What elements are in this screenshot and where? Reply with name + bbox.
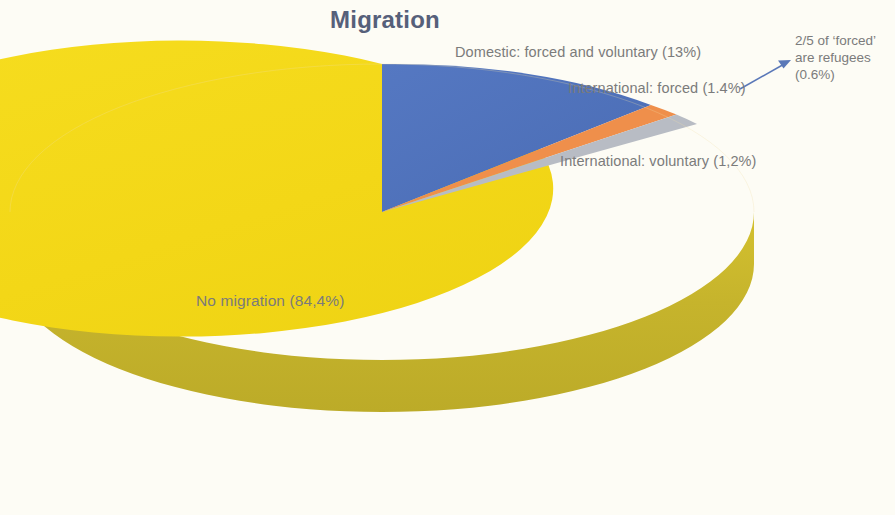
pie-label-international-forced: International: forced (1.4%) <box>568 80 746 96</box>
refugee-annotation: 2/5 of ‘forced’ are refugees (0.6%) <box>795 32 895 83</box>
chart-canvas: Migration <box>0 0 895 515</box>
pie-label-domestic: Domestic: forced and voluntary (13%) <box>455 44 701 60</box>
pie-label-no-migration: No migration (84,4%) <box>196 292 344 310</box>
pie-chart-graphic <box>0 0 895 515</box>
refugee-annotation-line1: 2/5 of ‘forced’ <box>795 32 895 49</box>
pie-label-international-voluntary: International: voluntary (1,2%) <box>560 153 757 169</box>
arrow-up-right-icon <box>740 60 791 89</box>
refugee-annotation-line3: (0.6%) <box>795 66 895 83</box>
refugee-annotation-line2: are refugees <box>795 49 895 66</box>
